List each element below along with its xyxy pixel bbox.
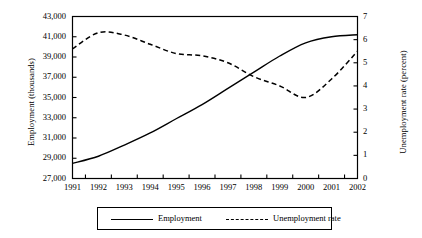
legend: Employment Unemployment rate <box>97 207 332 230</box>
series-line-employment <box>73 35 358 164</box>
legend-swatch-unemployment-rate <box>226 219 268 220</box>
legend-label-unemployment-rate: Unemployment rate <box>273 213 341 223</box>
chart-figure: Employment (thousands) Unemployment rate… <box>0 0 422 238</box>
series-line-unemployment-rate <box>73 32 358 98</box>
plot-frame <box>73 17 358 179</box>
legend-label-employment: Employment <box>158 213 202 223</box>
legend-swatch-employment <box>111 219 153 220</box>
plot-area <box>0 0 422 238</box>
